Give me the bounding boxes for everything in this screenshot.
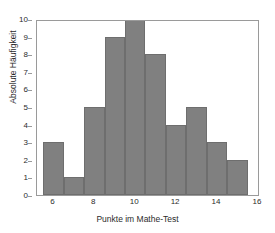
- y-axis-tick-labels: 012345678910: [0, 20, 32, 196]
- y-tick-mark: [28, 196, 32, 197]
- histogram-bar: [227, 160, 247, 195]
- y-tick-mark: [28, 161, 32, 162]
- y-tick-mark: [28, 126, 32, 127]
- y-tick-label: 10: [19, 16, 28, 24]
- x-tick-label: 12: [171, 198, 180, 206]
- x-axis-title: Punkte im Mathe-Test: [0, 214, 275, 224]
- y-tick-mark: [28, 55, 32, 56]
- y-tick-mark: [28, 20, 32, 21]
- x-tick-label: 6: [50, 198, 54, 206]
- y-tick-mark: [28, 73, 32, 74]
- y-tick-mark: [28, 90, 32, 91]
- histogram-bar: [207, 142, 227, 195]
- bars-layer: [37, 21, 258, 195]
- y-tick-mark: [28, 108, 32, 109]
- y-tick-mark: [28, 143, 32, 144]
- histogram-bar: [145, 54, 165, 195]
- x-tick-label: 8: [91, 198, 95, 206]
- histogram-bar: [186, 107, 206, 195]
- histogram-bar: [166, 125, 186, 195]
- histogram-bar: [84, 107, 104, 195]
- x-axis-tick-labels: 6810121416: [36, 198, 259, 210]
- x-tick-label: 16: [253, 198, 262, 206]
- histogram-bar: [64, 177, 84, 195]
- histogram-bar: [43, 142, 63, 195]
- y-tick-mark: [28, 38, 32, 39]
- y-tick-mark: [28, 178, 32, 179]
- histogram-figure: Absolute Häufigkeit 012345678910 6810121…: [0, 0, 275, 233]
- plot-area: [36, 20, 259, 196]
- x-tick-label: 10: [130, 198, 139, 206]
- histogram-bar: [105, 37, 125, 195]
- histogram-bar: [125, 20, 145, 195]
- x-tick-label: 14: [212, 198, 221, 206]
